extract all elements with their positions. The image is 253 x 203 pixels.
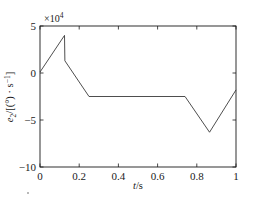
x-tick-label: 0.4 — [112, 170, 126, 182]
x-tick-label: 0.8 — [190, 170, 204, 182]
y-tick-label: −10 — [19, 161, 37, 173]
chart-figure: 00.20.40.60.81 50−5−10 ×104 t/s e2/[(°) … — [0, 0, 253, 203]
y-axis-label: e2/[(°) · s−1] — [3, 72, 18, 122]
x-tick-label: 0 — [37, 170, 43, 182]
y-tick-label: −5 — [24, 114, 36, 126]
x-axis-label: t/s — [133, 180, 143, 191]
line-chart: 00.20.40.60.81 50−5−10 ×104 t/s e2/[(°) … — [0, 0, 253, 203]
y-tick-labels: 50−5−10 — [19, 20, 37, 173]
y-tick-label: 5 — [31, 20, 37, 32]
x-tick-label: 0.2 — [72, 170, 86, 182]
x-tick-label: 0.6 — [151, 170, 165, 182]
x-tick-label: 1 — [233, 170, 239, 182]
scan-artifact — [27, 192, 29, 194]
y-tick-label: 0 — [31, 67, 37, 79]
y-axis-exponent-label: ×104 — [44, 11, 64, 24]
